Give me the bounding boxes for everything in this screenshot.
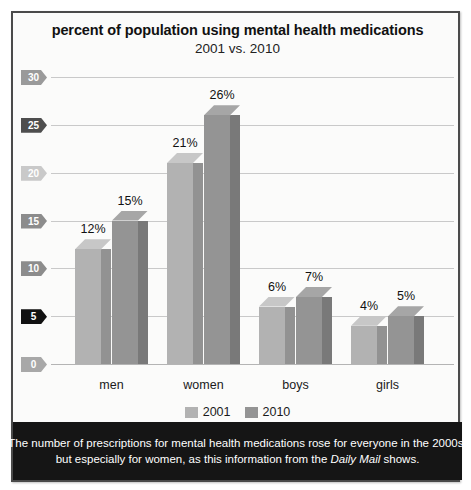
- category-label-boys: boys: [247, 378, 344, 392]
- bar-side-face: [414, 316, 424, 364]
- bar-side-face: [377, 326, 387, 364]
- category-label-girls: girls: [339, 378, 436, 392]
- bar-boys-2001: [259, 297, 285, 364]
- caption-source-name: Daily Mail: [331, 453, 381, 465]
- bar-top-face: [259, 297, 295, 307]
- bar-top-face: [167, 153, 203, 163]
- bar-men-2010: [112, 211, 138, 365]
- bar-side-face: [193, 163, 203, 364]
- gridline: [51, 77, 454, 78]
- bar-front-face: [351, 326, 377, 364]
- category-label-men: men: [63, 378, 160, 392]
- plot-area: 05101520253012%15%men21%26%women6%7%boys…: [13, 56, 462, 374]
- gridline: [51, 125, 454, 126]
- chart-screenshot: percent of population using mental healt…: [0, 0, 471, 490]
- bar-front-face: [296, 297, 322, 364]
- y-axis-tick-15: 15: [21, 214, 47, 229]
- bar-top-face: [112, 211, 148, 221]
- legend-item-2001: 2001: [185, 405, 231, 419]
- bar-side-face: [101, 249, 111, 364]
- legend-swatch-2001: [185, 407, 198, 418]
- caption-line-2-after: shows.: [380, 453, 419, 465]
- bar-girls-2001: [351, 316, 377, 364]
- caption-line-1: The number of prescriptions for mental h…: [8, 435, 466, 451]
- bar-value-label-men-2001: 12%: [69, 222, 117, 236]
- y-axis-tick-10: 10: [21, 261, 47, 276]
- bar-front-face: [204, 115, 230, 364]
- bar-value-label-boys-2010: 7%: [290, 270, 338, 284]
- legend-label-2010: 2010: [263, 405, 291, 419]
- bar-boys-2010: [296, 287, 322, 364]
- bar-girls-2010: [388, 306, 414, 364]
- caption-band: The number of prescriptions for mental h…: [13, 422, 462, 480]
- bar-side-face: [138, 221, 148, 365]
- bar-front-face: [167, 163, 193, 364]
- bar-top-face: [351, 316, 387, 326]
- bar-top-face: [75, 239, 111, 249]
- bar-women-2010: [204, 105, 230, 364]
- legend-item-2010: 2010: [245, 405, 291, 419]
- bar-side-face: [322, 297, 332, 364]
- bar-side-face: [230, 115, 240, 364]
- chart-legend: 20012010: [13, 405, 462, 419]
- bar-value-label-men-2010: 15%: [106, 194, 154, 208]
- legend-label-2001: 2001: [203, 405, 231, 419]
- chart-subtitle: 2001 vs. 2010: [13, 41, 462, 56]
- chart-panel: percent of population using mental healt…: [11, 11, 460, 482]
- category-label-women: women: [155, 378, 252, 392]
- y-axis-tick-0: 0: [21, 357, 47, 372]
- bar-side-face: [285, 307, 295, 364]
- caption-line-2: but especially for women, as this inform…: [56, 451, 420, 467]
- bar-women-2001: [167, 153, 193, 364]
- bar-front-face: [388, 316, 414, 364]
- y-axis-tick-25: 25: [21, 118, 47, 133]
- axis-baseline: [51, 364, 454, 365]
- bar-value-label-women-2010: 26%: [198, 88, 246, 102]
- bar-top-face: [204, 105, 240, 115]
- gridline: [51, 173, 454, 174]
- bar-value-label-women-2001: 21%: [161, 136, 209, 150]
- bar-front-face: [259, 307, 285, 364]
- bar-top-face: [388, 306, 424, 316]
- legend-swatch-2010: [245, 407, 258, 418]
- y-axis-tick-5: 5: [21, 309, 47, 324]
- bar-top-face: [296, 287, 332, 297]
- chart-title: percent of population using mental healt…: [13, 22, 462, 38]
- bar-value-label-girls-2010: 5%: [382, 289, 430, 303]
- y-axis-tick-20: 20: [21, 166, 47, 181]
- bar-front-face: [75, 249, 101, 364]
- y-axis-tick-30: 30: [21, 70, 47, 85]
- bar-men-2001: [75, 239, 101, 364]
- caption-line-2-before: but especially for women, as this inform…: [56, 453, 331, 465]
- bar-front-face: [112, 221, 138, 365]
